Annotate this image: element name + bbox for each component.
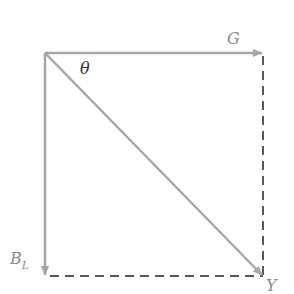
bl-label-subscript: L [21,259,29,272]
bl-label-main: B [9,249,22,268]
theta-label: θ [80,59,90,78]
g-label: G [227,29,240,48]
vector-diagram: G θ BL Y [0,0,294,294]
y-vector-arrow [45,53,262,275]
bl-label: BL [9,249,29,272]
y-label: Y [266,276,278,294]
diagram-canvas: G θ BL Y [0,0,294,294]
